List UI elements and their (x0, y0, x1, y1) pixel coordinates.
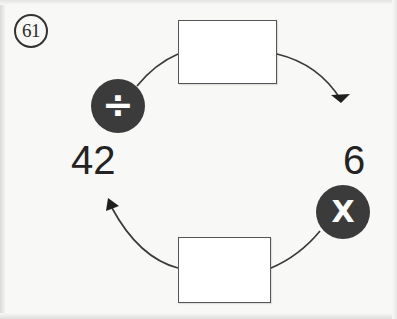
arrow-top-left-segment (137, 54, 178, 86)
problem-number-label: 61 (22, 20, 40, 42)
value-right-6: 6 (343, 140, 365, 180)
page-edge-shading-left (0, 0, 6, 319)
multiply-operator-badge: X (316, 185, 370, 239)
problem-number-badge: 61 (14, 14, 48, 48)
page-edge-shading-bottom (0, 313, 397, 319)
arrow-bottom-left-segment (106, 198, 178, 268)
page-edge-shading-top (0, 0, 397, 5)
divide-icon: ÷ (102, 86, 134, 124)
multiply-icon: X (331, 197, 354, 227)
arrowhead-down-right-icon (331, 94, 350, 103)
arrowhead-up-left-icon (106, 198, 119, 211)
answer-box-bottom[interactable] (178, 237, 271, 303)
page-edge-shading-right (392, 0, 397, 319)
answer-box-top[interactable] (178, 20, 277, 84)
divide-operator-badge: ÷ (91, 79, 145, 133)
arrow-bottom-right-segment (271, 231, 320, 268)
value-left-42: 42 (71, 140, 116, 180)
arrow-top-right-segment (277, 54, 350, 103)
worksheet-canvas: 61 ÷ X 42 6 (0, 0, 397, 319)
